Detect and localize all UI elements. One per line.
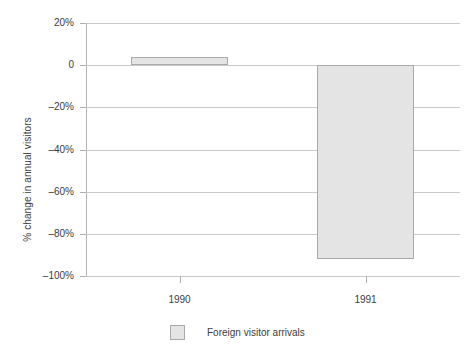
y-axis-tick (80, 23, 86, 24)
y-axis-tick-label: 0 (0, 60, 74, 70)
y-axis-tick-label: –20% (0, 102, 74, 112)
plot-area (86, 23, 460, 276)
y-axis-tick-label: 20% (0, 18, 74, 28)
y-axis-tick (80, 234, 86, 235)
y-axis-tick-label: –40% (0, 145, 74, 155)
x-axis-tick (180, 276, 181, 283)
x-axis-tick-label: 1990 (140, 294, 220, 306)
bar-1990 (131, 57, 228, 65)
x-axis-tick-label: 1991 (326, 294, 406, 306)
gridline (86, 23, 460, 24)
y-axis-tick-label: –100% (0, 271, 74, 281)
chart-legend: Foreign visitor arrivals (170, 325, 305, 340)
bar-chart: % change in annual visitors 20%0–20%–40%… (0, 0, 465, 347)
gridline (86, 276, 460, 277)
y-axis-tick-label: –80% (0, 229, 74, 239)
y-axis-tick (80, 150, 86, 151)
y-axis-tick (80, 276, 86, 277)
x-axis-tick (366, 276, 367, 283)
y-axis-tick-label: –60% (0, 187, 74, 197)
y-axis-tick (80, 65, 86, 66)
y-axis-tick (80, 192, 86, 193)
bar-1991 (317, 65, 414, 259)
legend-swatch-foreign-visitor-arrivals (170, 325, 185, 340)
y-axis-tick (80, 107, 86, 108)
legend-label: Foreign visitor arrivals (207, 327, 305, 339)
